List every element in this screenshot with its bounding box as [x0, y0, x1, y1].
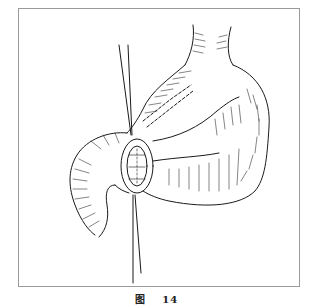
caption-number: 14 [162, 294, 178, 305]
stomach-anastomosis-illustration [19, 9, 301, 288]
caption-label: 图 [135, 294, 146, 305]
figure-caption: 图 14 [0, 291, 313, 306]
figure-frame [18, 8, 300, 287]
